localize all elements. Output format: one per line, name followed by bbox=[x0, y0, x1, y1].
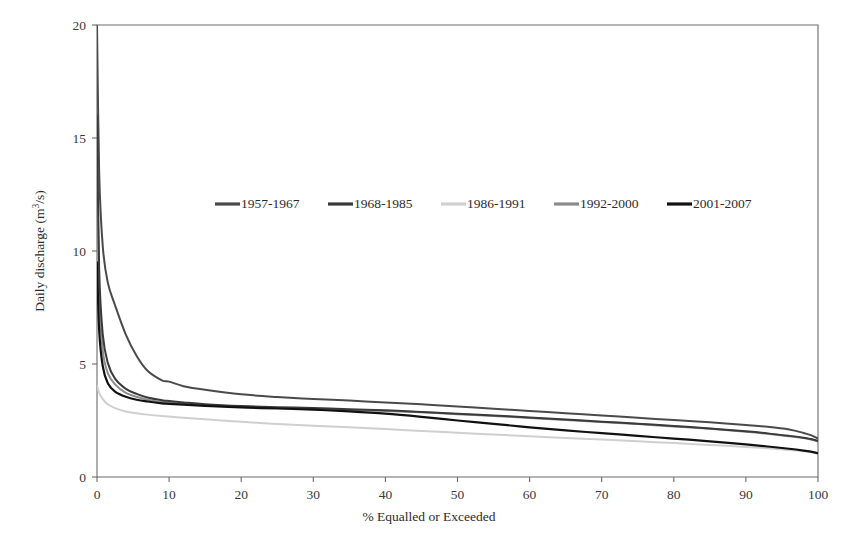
legend-label-1968-1985: 1968-1985 bbox=[354, 196, 413, 211]
x-tick-label: 0 bbox=[94, 487, 101, 502]
chart-legend: 1957-19671968-19851986-19911992-20002001… bbox=[215, 196, 752, 211]
x-tick-label: 70 bbox=[595, 487, 609, 502]
x-tick-label: 60 bbox=[523, 487, 537, 502]
series-line-1968-1985 bbox=[97, 115, 818, 440]
x-axis-ticks: 0102030405060708090100 bbox=[94, 477, 829, 502]
series-lines bbox=[97, 25, 818, 453]
series-line-1957-1967 bbox=[97, 25, 818, 439]
y-axis-title-group: Daily discharge (m3/s) bbox=[31, 190, 47, 311]
x-axis-title-group: % Equalled or Exceeded bbox=[362, 509, 495, 524]
chart-canvas: 05101520 0102030405060708090100 1957-196… bbox=[0, 0, 863, 560]
y-axis-ticks: 05101520 bbox=[73, 18, 98, 485]
legend-label-2001-2007: 2001-2007 bbox=[693, 196, 752, 211]
y-axis-title: Daily discharge (m3/s) bbox=[31, 190, 47, 311]
x-tick-label: 100 bbox=[808, 487, 829, 502]
plot-frame bbox=[97, 25, 818, 477]
y-tick-label: 5 bbox=[79, 357, 86, 372]
series-line-2001-2007 bbox=[97, 262, 818, 453]
x-tick-label: 90 bbox=[739, 487, 753, 502]
x-tick-label: 30 bbox=[307, 487, 321, 502]
legend-label-1957-1967: 1957-1967 bbox=[241, 196, 300, 211]
legend-label-1992-2000: 1992-2000 bbox=[580, 196, 639, 211]
x-tick-label: 80 bbox=[667, 487, 681, 502]
x-tick-label: 40 bbox=[379, 487, 393, 502]
x-tick-label: 10 bbox=[162, 487, 176, 502]
y-tick-label: 0 bbox=[79, 470, 86, 485]
plot-border bbox=[97, 25, 818, 477]
series-line-1986-1991 bbox=[97, 385, 818, 453]
x-axis-title: % Equalled or Exceeded bbox=[362, 509, 495, 524]
x-tick-label: 50 bbox=[451, 487, 465, 502]
x-tick-label: 20 bbox=[234, 487, 248, 502]
series-line-1992-2000 bbox=[97, 147, 818, 441]
y-tick-label: 15 bbox=[73, 131, 87, 146]
legend-label-1986-1991: 1986-1991 bbox=[467, 196, 526, 211]
flow-duration-curve-chart: 05101520 0102030405060708090100 1957-196… bbox=[0, 0, 863, 560]
y-tick-label: 20 bbox=[73, 18, 87, 33]
y-tick-label: 10 bbox=[73, 244, 87, 259]
